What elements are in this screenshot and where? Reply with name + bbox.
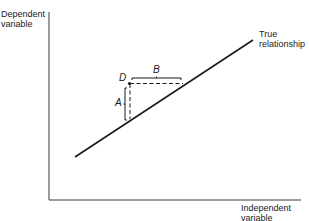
line-label-line-2: relationship xyxy=(259,39,305,49)
point-d-label: D xyxy=(119,73,126,83)
y-axis-label-line-1: Dependent xyxy=(1,9,45,19)
x-axis-label-line-1: Independent xyxy=(241,203,291,213)
true-relationship-line xyxy=(75,40,253,157)
line-label-line-1: True xyxy=(259,29,305,39)
y-axis-label: Dependent variable xyxy=(1,9,45,29)
gap-a-label: A xyxy=(115,98,122,108)
bracket-a xyxy=(124,88,128,120)
x-axis-label: Independent variable xyxy=(241,203,291,221)
y-axis-label-line-2: variable xyxy=(1,19,45,29)
gap-b-label: B xyxy=(153,65,160,75)
point-d xyxy=(128,82,131,85)
line-label: True relationship xyxy=(259,29,305,49)
bracket-b xyxy=(132,77,181,81)
x-axis-label-line-2: variable xyxy=(241,213,291,221)
